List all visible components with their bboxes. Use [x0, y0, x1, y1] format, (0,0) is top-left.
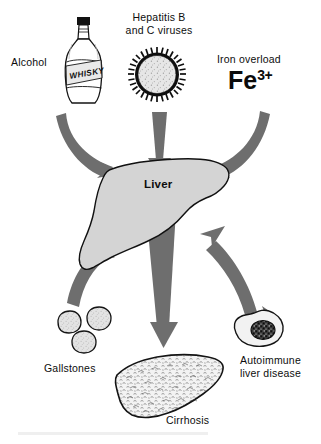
label-cirrhosis: Cirrhosis	[166, 414, 209, 426]
label-alcohol: Alcohol	[11, 56, 47, 68]
iron-formula-superscript: 3+	[257, 67, 272, 83]
label-autoimmune-line2: liver disease	[240, 367, 301, 379]
label-autoimmune-line1: Autoimmune	[240, 354, 301, 366]
label-liver: Liver	[144, 178, 173, 192]
immune-cell-icon	[234, 310, 283, 346]
virus-icon	[128, 47, 186, 102]
label-hepatitis-line2: and C viruses	[100, 24, 218, 36]
footer-divider	[18, 432, 208, 435]
liver-disease-diagram: WHISKY	[0, 0, 321, 444]
label-gallstones: Gallstones	[44, 362, 96, 374]
iron-formula: Fe3+	[228, 66, 272, 95]
iron-formula-base: Fe	[228, 66, 257, 94]
cirrhotic-liver-icon	[115, 355, 223, 418]
label-iron-overload: Iron overload	[217, 53, 281, 65]
label-hepatitis-line1: Hepatitis B	[100, 11, 218, 23]
gallstones-icon	[58, 307, 111, 353]
